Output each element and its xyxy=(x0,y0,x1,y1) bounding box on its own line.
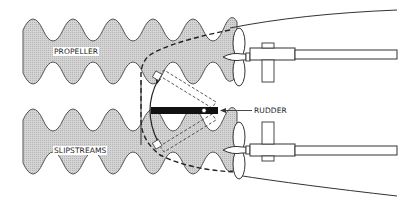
slipstreams-label: SLIPSTREAMS xyxy=(53,146,107,155)
rudder-slipstream-diagram xyxy=(0,0,419,207)
lower-propeller-assembly xyxy=(223,122,397,179)
rudder-pivot xyxy=(202,108,206,112)
lower-slipstream xyxy=(23,108,237,175)
rudder-pointer-arrowhead xyxy=(220,108,226,113)
hull-upper-line xyxy=(230,10,397,28)
propeller-label: PROPELLER xyxy=(53,47,99,56)
rudder-blade xyxy=(151,107,218,114)
upper-propeller-assembly xyxy=(223,28,397,86)
rudder-label: RUDDER xyxy=(254,106,287,115)
hull-lower-line xyxy=(236,175,397,196)
